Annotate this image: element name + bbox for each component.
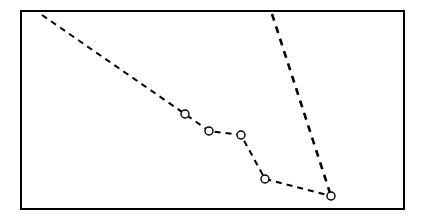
data-point-marker	[237, 131, 245, 139]
data-point-marker	[261, 175, 269, 183]
data-point-marker	[181, 110, 189, 118]
figure-root	[0, 0, 425, 224]
figure-background	[0, 0, 425, 224]
plot-canvas	[0, 0, 425, 224]
data-point-marker	[327, 192, 335, 200]
data-point-marker	[205, 127, 213, 135]
